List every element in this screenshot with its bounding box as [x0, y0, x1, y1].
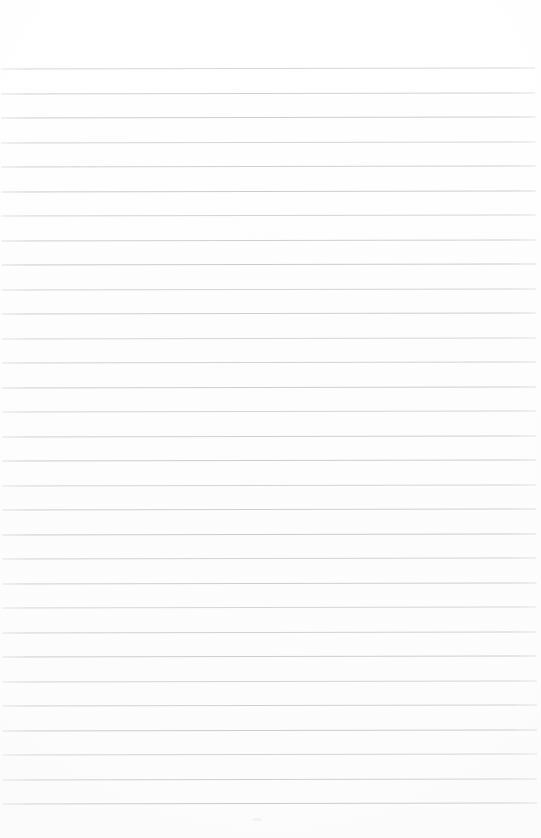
ruled-line	[2, 361, 536, 363]
ruled-line	[3, 802, 537, 804]
ruled-line	[2, 386, 536, 388]
ruled-line	[3, 729, 537, 731]
ruled-line	[1, 92, 535, 94]
ruled-line	[2, 337, 536, 339]
ruled-line	[2, 606, 536, 608]
ruled-line	[2, 582, 536, 584]
ruled-line	[2, 459, 536, 461]
ruled-line	[2, 288, 536, 290]
ruled-line	[3, 704, 537, 706]
ruled-line	[3, 680, 537, 682]
ruled-line	[2, 508, 536, 510]
ruled-line	[2, 312, 536, 314]
ruled-line	[1, 67, 535, 69]
ruled-line	[2, 263, 536, 265]
ruled-line	[3, 753, 537, 755]
ruled-line	[2, 655, 536, 657]
ruled-line	[2, 239, 536, 241]
ruled-line	[2, 557, 536, 559]
ruled-line	[2, 410, 536, 412]
ruled-line	[2, 484, 536, 486]
ruled-line	[2, 214, 536, 216]
ruled-line	[1, 116, 535, 118]
ruled-line	[3, 778, 537, 780]
ruled-line	[1, 141, 535, 143]
scanned-page	[0, 0, 541, 838]
ruled-line	[2, 190, 536, 192]
ruled-line	[1, 165, 535, 167]
ruled-line	[2, 631, 536, 633]
ruled-line	[2, 435, 536, 437]
ruled-lines-layer	[0, 0, 541, 838]
ruled-line	[2, 533, 536, 535]
